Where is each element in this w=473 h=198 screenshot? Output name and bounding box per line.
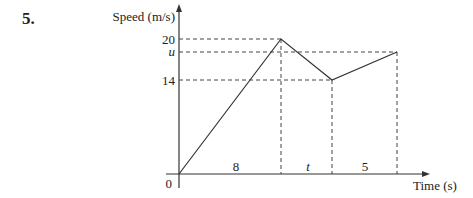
x-axis-label: Time (s) xyxy=(413,178,457,193)
guide-lines xyxy=(179,39,397,174)
x-axis-arrow-icon xyxy=(422,171,430,177)
interval-5: 5 xyxy=(362,159,369,174)
origin-label: 0 xyxy=(166,176,173,191)
interval-t: t xyxy=(306,159,310,174)
speed-curve xyxy=(179,39,397,174)
y-axis-label: Speed (m/s) xyxy=(113,9,175,24)
y-axis-arrow-icon xyxy=(176,4,182,12)
interval-8: 8 xyxy=(233,159,240,174)
speed-time-graph: Speed (m/s) 20 u 14 0 8 t 5 Time (s) xyxy=(0,0,473,198)
y-tick-14: 14 xyxy=(162,73,176,88)
y-tick-u: u xyxy=(169,44,176,59)
